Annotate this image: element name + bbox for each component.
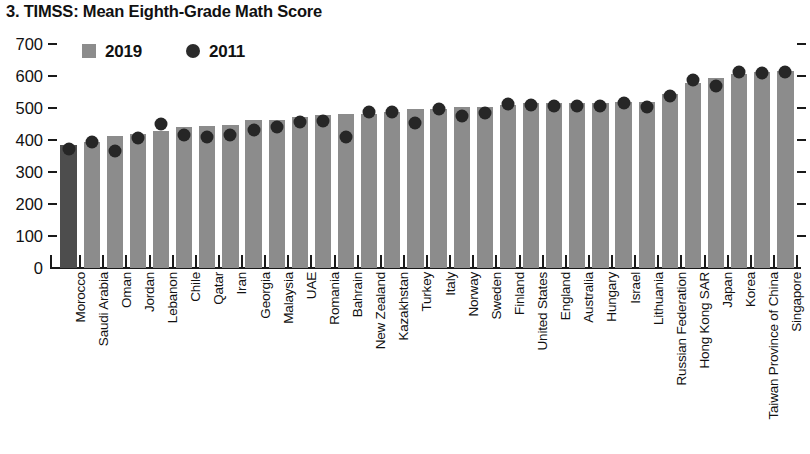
data-point-2011: [548, 99, 561, 112]
x-axis-label-text: Norway: [467, 272, 481, 317]
data-point-2011: [270, 121, 283, 134]
data-point-2011: [663, 89, 676, 102]
x-axis-label-text: UAE: [305, 272, 319, 299]
x-axis-label-text: England: [559, 272, 573, 320]
y-axis-tick-mark: [48, 235, 57, 237]
y-axis-tick-mark: [48, 107, 57, 109]
data-point-2011: [293, 116, 306, 129]
y-axis: 0100200300400500600700: [0, 44, 57, 268]
bar-group: [222, 44, 238, 268]
x-axis-label-lebanon: Lebanon: [166, 221, 180, 272]
x-axis-label-text: New Zealand: [374, 272, 388, 349]
x-axis-label-russian-federation: Russian Federation: [675, 159, 689, 272]
x-axis-label-text: Lithuania: [652, 272, 666, 325]
y-axis-tick-label: 300: [15, 163, 43, 180]
data-point-2011: [432, 102, 445, 115]
x-axis-label-text: Italy: [444, 272, 458, 296]
data-point-2011: [108, 144, 121, 157]
x-axis-label-text: Russian Federation: [675, 272, 689, 385]
bar-group: [731, 44, 747, 268]
x-axis-label-australia: Australia: [582, 221, 596, 272]
x-axis-label-text: Romania: [328, 272, 342, 325]
x-axis-label-text: Morocco: [74, 272, 88, 322]
y-axis-tick-mark: [48, 75, 57, 77]
x-axis-label-taiwan-province-of-china: Taiwan Province of China: [767, 124, 781, 272]
x-axis-label-text: Iran: [235, 272, 249, 294]
x-axis-label-text: Qatar: [212, 272, 226, 305]
data-point-2011: [316, 115, 329, 128]
y-axis-tick-label: 500: [15, 99, 43, 116]
x-axis-label-text: Turkey: [420, 272, 434, 312]
x-axis-label-malaysia: Malaysia: [282, 220, 296, 272]
x-axis-label-text: Finland: [513, 272, 527, 315]
x-axis-label-text: Bahrain: [351, 272, 365, 317]
data-point-2011: [640, 101, 653, 114]
data-point-2011: [409, 117, 422, 130]
data-point-2011: [779, 66, 792, 79]
x-axis-label-japan: Japan: [721, 236, 735, 272]
x-axis-label-text: Malaysia: [282, 272, 296, 324]
data-point-2011: [478, 107, 491, 120]
y-axis-right-tick-500: [797, 107, 806, 109]
data-point-2011: [363, 105, 376, 118]
x-axis-label-korea: Korea: [744, 237, 758, 272]
data-point-2011: [201, 130, 214, 143]
x-axis-label-georgia: Georgia: [259, 225, 273, 272]
x-axis-label-text: Chile: [189, 272, 203, 302]
x-axis-label-text: Singapore: [790, 272, 804, 332]
x-axis-label-iran: Iran: [235, 250, 249, 272]
x-axis-label-text: Israel: [629, 272, 643, 304]
x-axis-labels: MoroccoSaudi ArabiaOmanJordanLebanonChil…: [57, 272, 797, 447]
y-axis-right-tick-700: [797, 43, 806, 45]
x-axis-label-sweden: Sweden: [490, 224, 504, 272]
x-axis-label-jordan: Jordan: [143, 232, 157, 272]
data-point-2011: [686, 74, 699, 87]
x-axis-label-text: Sweden: [490, 272, 504, 320]
x-axis-label-text: Saudi Arabia: [97, 272, 111, 346]
x-axis-label-text: Hong Kong SAR: [698, 272, 712, 368]
x-axis-label-text: United States: [536, 272, 550, 350]
x-axis-label-qatar: Qatar: [212, 239, 226, 272]
x-axis-label-lithuania: Lithuania: [652, 219, 666, 272]
x-axis-label-text: Hungary: [605, 272, 619, 322]
x-axis-label-singapore: Singapore: [790, 212, 804, 272]
y-axis-tick-label: 200: [15, 195, 43, 212]
data-point-2011: [62, 143, 75, 156]
x-axis-label-text: Jordan: [143, 272, 157, 312]
data-point-2011: [617, 96, 630, 109]
x-axis-label-morocco: Morocco: [74, 222, 88, 272]
data-point-2011: [155, 118, 168, 131]
chart-title: 3. TIMSS: Mean Eighth-Grade Math Score: [6, 2, 322, 21]
y-axis-right-tick-600: [797, 75, 806, 77]
x-axis-label-uae: UAE: [305, 245, 319, 272]
x-axis-label-bahrain: Bahrain: [351, 227, 365, 272]
data-point-2011: [131, 132, 144, 145]
y-axis-right-tick-200: [797, 203, 806, 205]
x-axis-label-norway: Norway: [467, 227, 481, 272]
data-point-2011: [594, 100, 607, 113]
x-axis-label-saudi-arabia: Saudi Arabia: [97, 198, 111, 272]
x-axis-label-new-zealand: New Zealand: [374, 195, 388, 272]
x-axis-label-hong-kong-sar: Hong Kong SAR: [698, 176, 712, 272]
y-axis-tick-label: 100: [15, 227, 43, 244]
y-axis-tick-label: 0: [34, 259, 43, 276]
x-axis-label-chile: Chile: [189, 242, 203, 272]
y-axis-right-tick-300: [797, 171, 806, 173]
y-axis-right-tick-400: [797, 139, 806, 141]
data-point-2011: [247, 124, 260, 137]
x-axis-label-finland: Finland: [513, 229, 527, 272]
chart-container: 3. TIMSS: Mean Eighth-Grade Math Score 2…: [0, 0, 810, 454]
data-point-2011: [224, 129, 237, 142]
data-point-2011: [756, 67, 769, 80]
y-axis-tick-mark: [48, 203, 57, 205]
x-axis-label-kazakhstan: Kazakhstan: [397, 203, 411, 272]
data-point-2011: [386, 106, 399, 119]
y-axis-tick-mark: [48, 43, 57, 45]
data-point-2011: [733, 65, 746, 78]
x-axis-label-text: Georgia: [259, 272, 273, 319]
data-point-2011: [710, 79, 723, 92]
x-axis-label-text: Lebanon: [166, 272, 180, 323]
x-axis-label-text: Korea: [744, 272, 758, 307]
x-axis-label-england: England: [559, 224, 573, 272]
y-axis-tick-label: 700: [15, 35, 43, 52]
